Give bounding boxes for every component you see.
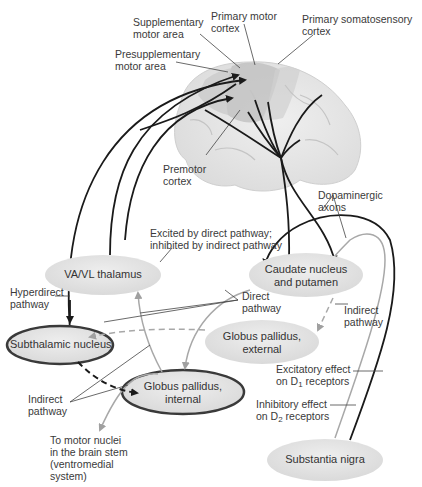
label-presupplementary-motor-area: Presupplementary motor area <box>115 48 200 72</box>
text-subthalamic: Subthalamic nucleus <box>10 338 110 351</box>
label-excitatory-d1: Excitatory effect on D1 receptors <box>276 363 351 391</box>
text-gp-internal: Globus pallidus, internal <box>133 380 233 406</box>
label-hyperdirect-pathway: Hyperdirect pathway <box>10 286 64 310</box>
text-gp-external: Globus pallidus, external <box>212 330 312 356</box>
label-indirect-pathway-right: Indirect pathway <box>344 304 383 328</box>
label-inhibitory-d2: Inhibitory effect on D2 receptors <box>256 398 329 426</box>
label-supplementary-motor-area: Supplementary motor area <box>133 16 204 40</box>
label-primary-motor-cortex: Primary motor cortex <box>211 10 277 34</box>
text-caudate-putamen: Caudate nucleus and putamen <box>256 263 356 289</box>
label-thalamus-note: Excited by direct pathway; inhibited by … <box>150 227 282 251</box>
label-direct-pathway: Direct pathway <box>242 290 281 314</box>
label-motor-nuclei-brainstem: To motor nuclei in the brain stem (ventr… <box>50 434 128 482</box>
label-premotor-cortex: Premotor cortex <box>163 163 206 187</box>
text-substantia-nigra: Substantia nigra <box>275 453 375 466</box>
text-thalamus: VA/VL thalamus <box>55 268 151 281</box>
label-primary-somatosensory-cortex: Primary somatosensory cortex <box>302 13 412 37</box>
label-indirect-pathway-left: Indirect pathway <box>28 393 67 417</box>
label-dopaminergic-axons: Dopaminergic axons <box>318 189 383 213</box>
